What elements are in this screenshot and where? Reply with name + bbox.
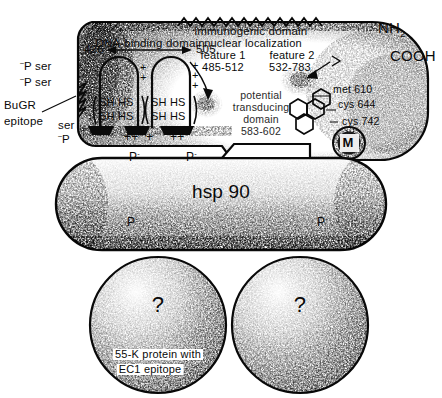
- hsp90-p-sign-4: -: [325, 214, 327, 223]
- dna-binding-start-residue: 426: [84, 44, 104, 56]
- unknown-subunit-2-mark: ?: [294, 294, 306, 317]
- thiol-pair-2: SH HS: [99, 111, 134, 122]
- nls-feature-2-range: 532-783: [269, 62, 311, 73]
- unknown-subunit-1-mark: ?: [152, 294, 164, 317]
- thiol-pair-4: SH HS: [151, 111, 186, 122]
- transducing-domain-range: 583-602: [241, 126, 281, 137]
- hsp90-p-3: P: [127, 215, 135, 229]
- transducing-domain-line-1: potential: [240, 90, 282, 101]
- residue-cys-644: cys 644: [338, 99, 376, 110]
- hsp90-p-sign-2: -: [194, 149, 196, 158]
- c-terminus-label: COOH: [390, 48, 436, 64]
- hsp90-p-sign-3: -: [135, 214, 137, 223]
- n-terminus-text: NH: [378, 19, 400, 36]
- nuclear-localization-label: nuclear localization: [204, 38, 302, 49]
- hsp90-p-2: P: [186, 150, 194, 164]
- hsp90-phosphate-4: P-: [317, 215, 328, 228]
- hsp90-p-4: P: [317, 215, 325, 229]
- nls-feature-1-range: 485-512: [202, 62, 244, 73]
- phospho-ser-2: –P ser: [20, 76, 52, 89]
- n-terminus-subscript: 2: [400, 28, 406, 39]
- charge-top-5: +: [192, 80, 199, 91]
- n-terminus-label: NH2: [378, 20, 406, 39]
- residue-met-610: met 610: [333, 84, 372, 95]
- ligand-marker-label: M: [342, 136, 353, 150]
- charge-bottom-3: ++: [170, 131, 184, 143]
- hsp90-label: hsp 90: [192, 182, 250, 202]
- hsp90-phosphate-2: P-: [186, 150, 197, 163]
- thiol-pair-1: SH HS: [99, 97, 134, 108]
- charge-top-2: +: [140, 72, 147, 83]
- phosphate-p-2: P: [24, 76, 32, 88]
- unknown-subunit-2: [232, 257, 368, 393]
- hsp90-phosphate-3: P-: [127, 215, 138, 228]
- charge-bottom-2: +: [146, 131, 153, 143]
- charge-bottom-1: ++: [124, 131, 138, 143]
- ser-label-1: ser: [35, 60, 52, 72]
- figure-canvas: immunogenic domain DNA-binding domain 42…: [0, 0, 442, 398]
- residue-cys-742: cys 742: [342, 116, 380, 127]
- subunit-1-caption-line-2: EC1 epitope: [117, 364, 184, 375]
- phospho-ser-1: –P ser: [20, 60, 52, 73]
- thiol-pair-3: SH HS: [151, 97, 186, 108]
- bugr-leader-line: [42, 96, 76, 112]
- phospho-ser-3: –P: [58, 133, 70, 146]
- hsp90-p-sign-1: -: [137, 149, 139, 158]
- phosphate-p-3: P: [62, 133, 70, 145]
- ser-label-2: ser: [35, 76, 52, 88]
- hsp90-p-1: P: [129, 150, 137, 164]
- bugr-epitope-line-1: BuGR: [4, 100, 36, 112]
- nls-feature-1-label: feature 1: [200, 50, 245, 61]
- bugr-epitope-line-2: epitope: [4, 116, 43, 128]
- phosphate-p-1: P: [24, 60, 32, 72]
- nls-feature-2-label: feature 2: [269, 50, 314, 61]
- hsp90-phosphate-1: P-: [129, 150, 140, 163]
- transducing-domain-line-2: transducing: [233, 102, 289, 113]
- ser-label-3: ser: [58, 120, 75, 132]
- dna-binding-domain-label: DNA-binding domain: [95, 38, 205, 50]
- subunit-1-caption-line-1: 55-K protein with: [113, 349, 203, 360]
- transducing-domain-line-3: domain: [243, 114, 279, 125]
